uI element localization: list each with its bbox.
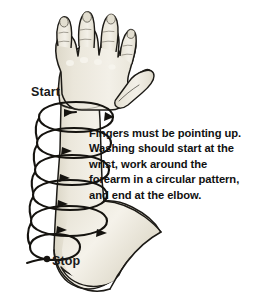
spiral-connector-2 bbox=[34, 145, 37, 166]
instruction-line-3: wrist, work around the bbox=[89, 157, 259, 172]
spiral-connector-1 bbox=[36, 118, 39, 139]
illustration-page: Start Stop Fingers must be pointing up. … bbox=[0, 0, 262, 293]
instruction-text-block: Fingers must be pointing up. Washing sho… bbox=[89, 126, 259, 203]
instruction-line-1: Fingers must be pointing up. bbox=[89, 126, 259, 141]
instruction-line-5: and end at the elbow. bbox=[89, 188, 259, 203]
nail-middle bbox=[82, 12, 92, 23]
instruction-line-4: forearm in a circular pattern, bbox=[89, 172, 259, 187]
stop-leader-dot bbox=[44, 256, 50, 262]
knuckle-4 bbox=[108, 64, 115, 70]
knuckle-2 bbox=[80, 57, 88, 63]
knuckle-1 bbox=[66, 60, 74, 66]
start-label: Start bbox=[31, 85, 60, 99]
stop-label: Stop bbox=[52, 254, 80, 268]
instruction-line-2: Washing should start at the bbox=[89, 141, 259, 156]
knuckle-3 bbox=[94, 59, 102, 65]
